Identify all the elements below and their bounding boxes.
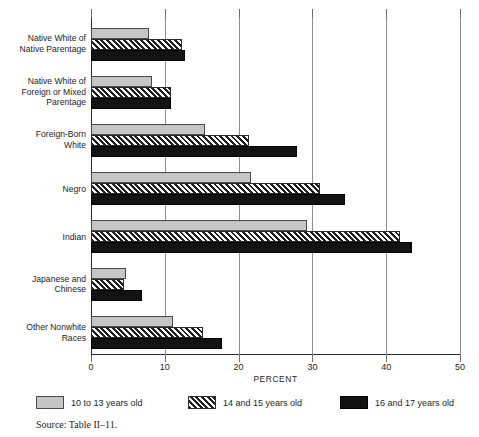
bar [91, 316, 173, 327]
chart-legend: 10 to 13 years old14 and 15 years old16 … [0, 396, 479, 418]
bar [91, 87, 171, 98]
category-label-line: Native White of [0, 33, 86, 44]
category-label-line: Japanese and [0, 274, 86, 285]
bar [91, 194, 345, 205]
x-axis-top-tick [239, 9, 240, 18]
x-axis-tick [386, 355, 387, 362]
x-axis-tick-label: 10 [160, 362, 170, 372]
bar [91, 76, 152, 87]
x-axis-tick-label: 0 [88, 362, 93, 372]
category-label: Japanese andChinese [0, 274, 86, 295]
legend-label: 14 and 15 years old [223, 398, 302, 408]
x-axis-tick [165, 355, 166, 362]
category-label-line: Indian [0, 231, 86, 242]
category-label-line: Native White of [0, 76, 86, 87]
x-axis-tick [460, 355, 461, 362]
bar [91, 39, 182, 50]
category-label: Other NonwhiteRaces [0, 322, 86, 343]
category-label-line: Parentage [0, 98, 86, 109]
legend-item: 16 and 17 years old [340, 396, 454, 409]
bar [91, 124, 205, 135]
bar [91, 268, 126, 279]
gridline [386, 18, 387, 355]
bar [91, 231, 400, 242]
legend-label: 16 and 17 years old [375, 398, 454, 408]
x-axis-top-tick [460, 9, 461, 18]
legend-label: 10 to 13 years old [71, 398, 143, 408]
bar [91, 279, 124, 290]
x-axis-tick-label: 50 [455, 362, 465, 372]
bar [91, 290, 142, 301]
category-label-line: Foreign or Mixed [0, 87, 86, 98]
category-label-line: Other Nonwhite [0, 322, 86, 333]
category-label-line: Native Parentage [0, 44, 86, 55]
x-axis-top-tick [165, 9, 166, 18]
category-label-line: Chinese [0, 285, 86, 296]
x-axis-tick [91, 355, 92, 362]
x-axis-tick [312, 355, 313, 362]
category-label-line: Negro [0, 183, 86, 194]
bar [91, 242, 412, 253]
bar [91, 98, 171, 109]
x-axis-top-tick [312, 9, 313, 18]
bar [91, 146, 297, 157]
category-label: Native White ofNative Parentage [0, 33, 86, 54]
x-axis-title: PERCENT [91, 374, 460, 384]
bar [91, 28, 149, 39]
x-axis-tick-label: 20 [234, 362, 244, 372]
category-label: Negro [0, 183, 86, 194]
x-axis-top-tick [91, 9, 92, 18]
figure-container: Native White ofNative ParentageNative Wh… [0, 0, 479, 437]
legend-swatch [340, 396, 368, 409]
bar [91, 220, 307, 231]
legend-swatch [36, 396, 64, 409]
x-axis-top-tick [386, 9, 387, 18]
bar [91, 50, 185, 61]
category-label-line: White [0, 140, 86, 151]
plot-area [91, 18, 460, 355]
bar [91, 172, 251, 183]
source-note: Source: Table II–11. [36, 419, 117, 430]
category-label: Native White ofForeign or MixedParentage [0, 76, 86, 108]
legend-item: 14 and 15 years old [188, 396, 302, 409]
category-label: Foreign-BornWhite [0, 130, 86, 151]
bar [91, 338, 222, 349]
category-label-line: Races [0, 333, 86, 344]
x-axis-tick-label: 40 [381, 362, 391, 372]
legend-swatch [188, 396, 216, 409]
bar [91, 183, 320, 194]
x-axis-line [91, 354, 460, 355]
x-axis-tick-label: 30 [307, 362, 317, 372]
category-label-line: Foreign-Born [0, 130, 86, 141]
gridline [460, 18, 461, 355]
bar [91, 135, 249, 146]
x-axis-tick [239, 355, 240, 362]
legend-item: 10 to 13 years old [36, 396, 143, 409]
category-axis-labels: Native White ofNative ParentageNative Wh… [0, 18, 86, 355]
bar [91, 327, 203, 338]
category-label: Indian [0, 231, 86, 242]
